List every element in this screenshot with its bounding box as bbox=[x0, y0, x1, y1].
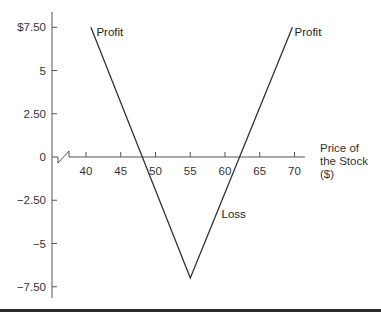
x-tick-label: 55 bbox=[184, 165, 197, 177]
x-tick-label: 50 bbox=[149, 165, 162, 177]
x-axis-title: Price ofthe Stock($) bbox=[320, 142, 368, 180]
annotation-label: Loss bbox=[222, 208, 247, 220]
x-axis-title-line: the Stock bbox=[320, 155, 368, 167]
x-tick-label: 65 bbox=[253, 165, 266, 177]
x-ticks: 40455055606570 bbox=[80, 152, 301, 177]
x-tick-label: 45 bbox=[114, 165, 127, 177]
x-tick-label: 60 bbox=[219, 165, 232, 177]
bottom-rule bbox=[0, 309, 381, 312]
y-tick-label: −5 bbox=[33, 238, 46, 250]
y-tick-label: 5 bbox=[40, 65, 46, 77]
x-axis bbox=[52, 151, 305, 163]
payoff-chart: $7.5052.500−2.50−5−7.50 40455055606570 P… bbox=[0, 0, 381, 323]
y-tick-label: −7.50 bbox=[17, 281, 46, 293]
y-tick-label: −2.50 bbox=[17, 194, 46, 206]
y-tick-label: 2.50 bbox=[24, 108, 46, 120]
y-ticks: $7.5052.500−2.50−5−7.50 bbox=[17, 21, 57, 293]
x-tick-label: 40 bbox=[80, 165, 93, 177]
x-axis-title-line: Price of bbox=[320, 142, 360, 154]
y-tick-label: $7.50 bbox=[17, 21, 46, 33]
annotation-label: Profit bbox=[96, 26, 124, 38]
annotation-label: Profit bbox=[295, 26, 323, 38]
x-axis-title-line: ($) bbox=[320, 168, 334, 180]
x-tick-label: 70 bbox=[288, 165, 301, 177]
annotations: ProfitProfitLoss bbox=[96, 26, 322, 220]
axis-break-icon bbox=[58, 151, 69, 163]
y-tick-label: 0 bbox=[40, 151, 46, 163]
